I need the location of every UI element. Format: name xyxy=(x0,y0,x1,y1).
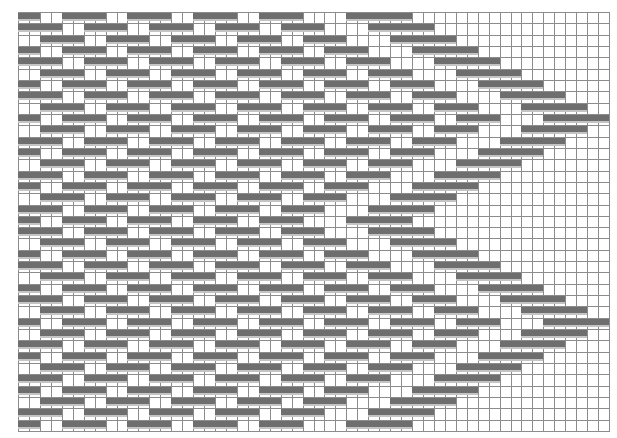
empty-cell xyxy=(489,329,500,340)
filled-cell xyxy=(138,363,149,374)
filled-cell xyxy=(324,35,335,46)
filled-cell xyxy=(270,193,281,204)
filled-cell xyxy=(511,69,522,80)
empty-cell xyxy=(467,193,478,204)
empty-cell xyxy=(587,340,598,351)
empty-cell xyxy=(346,23,357,34)
empty-cell xyxy=(346,272,357,283)
empty-cell xyxy=(521,272,532,283)
filled-cell xyxy=(303,91,314,102)
empty-cell xyxy=(500,23,511,34)
filled-cell xyxy=(182,137,193,148)
filled-cell xyxy=(62,250,73,261)
empty-cell xyxy=(40,148,51,159)
filled-cell xyxy=(160,46,171,57)
empty-cell xyxy=(423,272,434,283)
empty-cell xyxy=(412,103,423,114)
empty-cell xyxy=(587,69,598,80)
empty-cell xyxy=(554,46,565,57)
filled-cell xyxy=(478,69,489,80)
filled-cell xyxy=(368,272,379,283)
empty-cell xyxy=(587,57,598,68)
filled-cell xyxy=(204,386,215,397)
empty-cell xyxy=(576,35,587,46)
filled-cell xyxy=(51,329,62,340)
empty-cell xyxy=(412,12,423,23)
filled-cell xyxy=(160,408,171,419)
empty-cell xyxy=(303,216,314,227)
filled-cell xyxy=(379,57,390,68)
empty-cell xyxy=(160,397,171,408)
empty-cell xyxy=(84,329,95,340)
empty-cell xyxy=(248,420,259,431)
empty-cell xyxy=(511,374,522,385)
filled-cell xyxy=(248,329,259,340)
filled-cell xyxy=(270,397,281,408)
empty-cell xyxy=(62,227,73,238)
filled-cell xyxy=(489,261,500,272)
filled-cell xyxy=(281,57,292,68)
empty-cell xyxy=(117,284,128,295)
empty-cell xyxy=(489,103,500,114)
empty-cell xyxy=(478,238,489,249)
filled-cell xyxy=(138,193,149,204)
filled-cell xyxy=(346,352,357,363)
empty-cell xyxy=(554,57,565,68)
empty-cell xyxy=(40,420,51,431)
empty-cell xyxy=(500,386,511,397)
filled-cell xyxy=(445,171,456,182)
filled-cell xyxy=(401,114,412,125)
filled-cell xyxy=(324,318,335,329)
empty-cell xyxy=(117,352,128,363)
empty-cell xyxy=(51,284,62,295)
filled-cell xyxy=(171,295,182,306)
filled-cell xyxy=(95,227,106,238)
empty-cell xyxy=(521,159,532,170)
empty-cell xyxy=(314,250,325,261)
filled-cell xyxy=(62,216,73,227)
filled-cell xyxy=(456,159,467,170)
empty-cell xyxy=(117,46,128,57)
filled-cell xyxy=(259,306,270,317)
empty-cell xyxy=(314,216,325,227)
empty-cell xyxy=(412,57,423,68)
filled-cell xyxy=(368,227,379,238)
empty-cell xyxy=(18,363,29,374)
empty-cell xyxy=(423,69,434,80)
filled-cell xyxy=(138,329,149,340)
empty-cell xyxy=(346,193,357,204)
empty-cell xyxy=(554,171,565,182)
filled-cell xyxy=(29,205,40,216)
empty-cell xyxy=(182,284,193,295)
filled-cell xyxy=(270,12,281,23)
filled-cell xyxy=(84,23,95,34)
filled-cell xyxy=(478,171,489,182)
filled-cell xyxy=(95,57,106,68)
filled-cell xyxy=(456,261,467,272)
empty-cell xyxy=(357,193,368,204)
empty-cell xyxy=(576,295,587,306)
filled-cell xyxy=(456,103,467,114)
empty-cell xyxy=(95,193,106,204)
empty-cell xyxy=(587,363,598,374)
filled-cell xyxy=(160,12,171,23)
empty-cell xyxy=(259,295,270,306)
filled-cell xyxy=(204,250,215,261)
empty-cell xyxy=(270,57,281,68)
filled-cell xyxy=(248,91,259,102)
empty-cell xyxy=(204,91,215,102)
empty-cell xyxy=(182,114,193,125)
filled-cell xyxy=(182,69,193,80)
filled-cell xyxy=(467,329,478,340)
empty-cell xyxy=(478,23,489,34)
empty-cell xyxy=(587,329,598,340)
filled-cell xyxy=(423,340,434,351)
empty-cell xyxy=(576,386,587,397)
filled-cell xyxy=(248,397,259,408)
filled-cell xyxy=(390,363,401,374)
filled-cell xyxy=(193,306,204,317)
empty-cell xyxy=(29,125,40,136)
filled-cell xyxy=(379,171,390,182)
filled-cell xyxy=(18,261,29,272)
filled-cell xyxy=(303,227,314,238)
